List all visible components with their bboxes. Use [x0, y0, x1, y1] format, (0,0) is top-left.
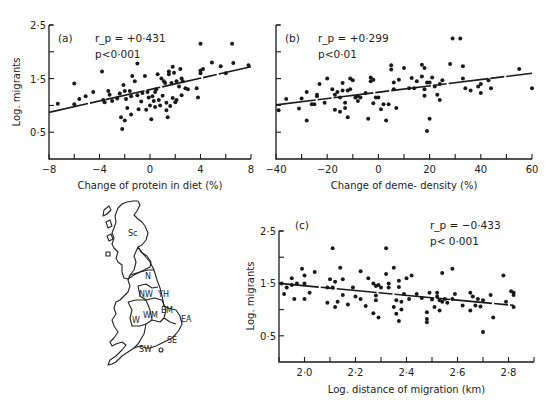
panel-c-xtick-label: 2·8	[501, 367, 517, 378]
panel-c-data-point	[399, 308, 403, 312]
panel-c-data-point	[440, 271, 444, 275]
panel-b-data-point	[469, 88, 473, 92]
panel-a-data-point	[149, 117, 153, 121]
panel-c-data-point	[392, 305, 396, 309]
panel-c-data-point	[399, 300, 403, 304]
panel-c-data-point	[359, 297, 363, 301]
panel-a-data-point	[170, 81, 174, 85]
panel-c-data-point	[473, 303, 477, 307]
uk-regions-map: Sc N NW YH EM WM W EA SE SW	[103, 201, 192, 365]
panel-c-data-point	[341, 277, 345, 281]
panel-c-data-point	[371, 311, 375, 315]
panel-c-data-point	[313, 270, 317, 274]
panel-a-data-point	[201, 67, 205, 71]
panel-b-data-point	[366, 117, 370, 121]
panel-b-fit-line	[276, 73, 532, 105]
panel-c-data-point	[468, 309, 472, 313]
panel-b-data-point	[487, 78, 491, 82]
panel-a-data-point	[247, 63, 251, 67]
panel-a-data-point	[135, 93, 139, 97]
panel-b-xtick-label: 0	[375, 164, 381, 175]
map-label-n: N	[145, 272, 151, 281]
map-island-4	[106, 252, 110, 256]
panel-c-data-point	[397, 285, 401, 289]
panel-b-data-point	[423, 66, 427, 70]
panel-b-data-point	[407, 86, 411, 90]
panel-a-data-point	[72, 102, 76, 106]
panel-b-data-point	[438, 82, 442, 86]
panel-a-xtick-label: 4	[197, 164, 203, 175]
panel-c-data-point	[300, 267, 304, 271]
panel-b-data-point	[335, 90, 339, 94]
panel-c-xtick-label: 2·4	[399, 367, 415, 378]
panel-c-ytick-label: 2·5	[260, 226, 276, 237]
map-label-yh: YH	[157, 290, 169, 299]
panel-a-data-point	[144, 108, 148, 112]
panel-b-data-point	[428, 117, 432, 121]
panel-c-data-point	[450, 297, 454, 301]
panel-b-axes	[276, 25, 532, 159]
panel-c-data-point	[453, 292, 457, 296]
panel-b-data-point	[351, 78, 355, 82]
panel-b-data-point	[440, 78, 444, 82]
panel-b-data-point	[346, 115, 350, 119]
map-island-1	[103, 206, 111, 216]
panel-c-data-point	[491, 316, 495, 320]
panel-a-xtick-label: 8	[248, 164, 254, 175]
panel-a-data-point	[118, 92, 122, 96]
panel-b-data-point	[356, 99, 360, 103]
panel-a-data-point	[168, 104, 172, 108]
panel-a-data-point	[210, 61, 214, 65]
panel-c-data-point	[443, 297, 447, 301]
panel-c-data-point	[290, 283, 294, 287]
panel-a-xtick-label: −4	[92, 164, 107, 175]
panel-b-data-point	[433, 85, 437, 89]
panel-b-data-point	[451, 36, 455, 40]
panel-c-data-point	[351, 286, 355, 290]
panel-a-data-point	[180, 93, 184, 97]
panel-a-ytick-label: 2·5	[30, 20, 46, 31]
panel-b-label: (b)	[285, 32, 300, 44]
panel-a-data-point	[100, 70, 104, 74]
map-label-se: SE	[167, 336, 177, 345]
panel-a-data-point	[115, 96, 119, 100]
panel-b-data-point	[402, 66, 406, 70]
panel-b-data-point	[428, 80, 432, 84]
panel-b-data-point	[423, 87, 427, 91]
panel-b-data-point	[371, 101, 375, 105]
panel-c-data-point	[384, 272, 388, 276]
panel-c-data-point	[364, 304, 368, 308]
panel-b-data-point	[379, 107, 383, 111]
panel-a-data-point	[148, 103, 152, 107]
panel-a-data-point	[181, 79, 185, 83]
panel-c-data-point	[428, 291, 432, 295]
panel-c-data-point	[384, 246, 388, 250]
panel-b-data-point	[343, 101, 347, 105]
panel-b-data-point	[376, 95, 380, 99]
panel-b-data-point	[448, 62, 452, 66]
panel-a-data-point	[129, 94, 133, 98]
panel-a-data-point	[175, 79, 179, 83]
panel-c-data-point	[354, 295, 358, 299]
panel-b-data-point	[323, 101, 327, 105]
panel-c-data-point	[415, 292, 419, 296]
panel-c-data-point	[468, 291, 472, 295]
panel-a-data-point	[77, 97, 81, 101]
panel-b-data-point	[284, 97, 288, 101]
panel-c-p-annotation: p< 0·001	[430, 235, 479, 247]
panel-b-xtick-label: −20	[317, 164, 338, 175]
map-label-wm: WM	[143, 311, 158, 320]
panel-a-data-point	[120, 127, 124, 131]
panel-c-data-point	[377, 316, 381, 320]
panel-a-data-point	[84, 94, 88, 98]
panel-a-data-point	[230, 42, 234, 46]
panel-a-xlabel: Change of protein in diet (%)	[78, 180, 223, 191]
panel-b-data-point	[315, 94, 319, 98]
panel-c-data-point	[512, 291, 516, 295]
panel-c-data-point	[504, 300, 508, 304]
panel-a-data-point	[151, 94, 155, 98]
panel-c-data-point	[366, 276, 370, 280]
panel-c-xtick-label: 2·6	[450, 367, 466, 378]
panel-c-data-point	[359, 269, 363, 273]
panel-a-data-point	[154, 87, 158, 91]
